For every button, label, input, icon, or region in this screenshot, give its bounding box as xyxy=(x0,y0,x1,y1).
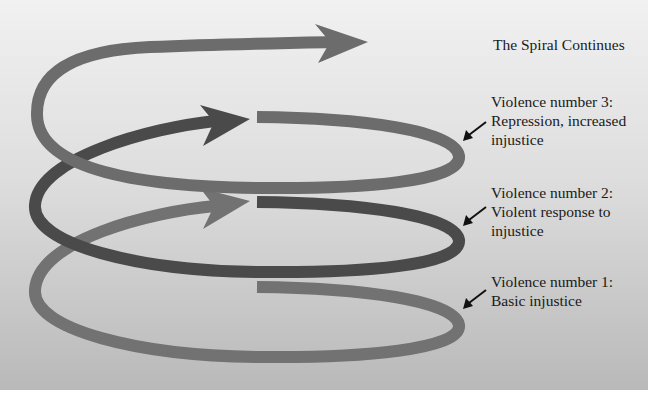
diagram-title: The Spiral Continues xyxy=(493,35,625,54)
stage-3-label: Violence number 3: Repression, increased… xyxy=(491,92,626,149)
stage-2-description-line-1: Violent response to xyxy=(491,202,613,221)
stage-3-heading: Violence number 3: xyxy=(491,92,626,111)
coil-3-repression xyxy=(37,24,459,188)
pointer-arrow-2-icon xyxy=(463,207,486,226)
pointer-arrow-1-icon xyxy=(463,290,486,309)
stage-1-label: Violence number 1: Basic injustice xyxy=(491,272,613,310)
pointer-arrow-3-icon xyxy=(463,122,486,141)
stage-3-description-line-1: Repression, increased xyxy=(491,111,626,130)
stage-2-description-line-2: injustice xyxy=(491,221,613,240)
stage-1-heading: Violence number 1: xyxy=(491,272,613,291)
stage-2-heading: Violence number 2: xyxy=(491,183,613,202)
stage-3-description-line-2: injustice xyxy=(491,130,626,149)
stage-1-description-line-1: Basic injustice xyxy=(491,291,613,310)
stage-2-label: Violence number 2: Violent response to i… xyxy=(491,183,613,240)
